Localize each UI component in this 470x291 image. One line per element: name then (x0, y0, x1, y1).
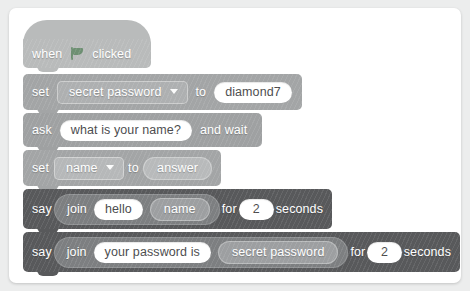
and-wait-label: and wait (200, 123, 247, 137)
clicked-label: clicked (92, 47, 131, 61)
reporter-answer[interactable]: answer (143, 157, 212, 180)
question-input[interactable]: what is your name? (60, 120, 192, 141)
seconds-label: seconds (276, 202, 323, 216)
variable-dropdown-value: secret password (69, 85, 162, 99)
to-label: to (196, 85, 207, 99)
join-left-input[interactable]: hello (94, 199, 143, 220)
operator-join-password[interactable]: join your password is secret password (54, 237, 349, 268)
block-notch (37, 268, 59, 276)
to-label: to (128, 161, 139, 175)
green-flag-icon (70, 47, 84, 61)
set-label: set (32, 85, 49, 99)
reporter-secret-password[interactable]: secret password (218, 241, 339, 264)
variable-dropdown-value: name (66, 161, 98, 175)
reporter-name[interactable]: name (150, 198, 210, 221)
join-left-input[interactable]: your password is (94, 242, 211, 263)
hat-dome (23, 20, 151, 44)
variable-dropdown-name[interactable]: name (54, 157, 124, 180)
chevron-down-icon (106, 165, 114, 170)
block-when-flag-clicked[interactable]: when clicked (23, 39, 151, 68)
variable-dropdown-secret-password[interactable]: secret password (57, 81, 188, 104)
block-notch (37, 64, 59, 72)
chevron-down-icon (170, 89, 178, 94)
script-canvas: when clicked set secret password to diam… (9, 8, 461, 283)
join-label: join (67, 245, 87, 259)
for-label: for (350, 245, 365, 259)
duration-input[interactable]: 2 (239, 199, 274, 220)
duration-input[interactable]: 2 (367, 242, 402, 263)
value-input-diamond7[interactable]: diamond7 (214, 82, 292, 103)
seconds-label: seconds (404, 245, 451, 259)
block-set-name[interactable]: set name to answer (23, 150, 221, 186)
for-label: for (222, 202, 237, 216)
join-label: join (67, 202, 87, 216)
block-say-hello-name[interactable]: say join hello name for 2 seconds (23, 189, 332, 229)
operator-join-hello-name[interactable]: join hello name (54, 194, 219, 225)
say-label: say (32, 202, 52, 216)
set-label: set (32, 161, 49, 175)
block-set-secret-password[interactable]: set secret password to diamond7 (23, 74, 302, 110)
ask-label: ask (32, 123, 52, 137)
say-label: say (32, 245, 52, 259)
block-ask-and-wait[interactable]: ask what is your name? and wait (23, 113, 262, 147)
when-label: when (32, 47, 62, 61)
block-say-your-password-is[interactable]: say join your password is secret passwor… (23, 232, 460, 272)
